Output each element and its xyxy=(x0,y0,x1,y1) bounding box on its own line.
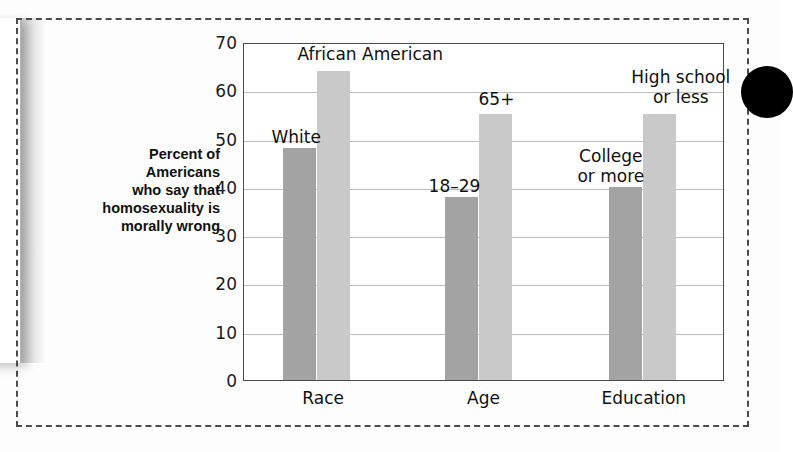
bar-race-1 xyxy=(317,71,350,380)
bar-annotation-age-0: 18–29 xyxy=(410,176,500,196)
y-tick-label-0: 0 xyxy=(197,371,237,391)
bar-annotation-education-1: High school or less xyxy=(611,67,751,107)
bar-annotation-age-1: 65+ xyxy=(462,89,532,109)
x-tick-label-age: Age xyxy=(404,388,564,408)
x-tick-label-education: Education xyxy=(564,388,724,408)
y-tick-label-60: 60 xyxy=(197,81,237,101)
bar-education-0 xyxy=(609,187,642,380)
bar-age-0 xyxy=(445,197,478,380)
bar-race-0 xyxy=(283,148,316,380)
bar-annotation-education-0: College or more xyxy=(556,146,666,186)
y-tick-label-40: 40 xyxy=(197,178,237,198)
y-axis-tick-labels: 010203040506070 xyxy=(193,43,237,381)
y-tick-label-10: 10 xyxy=(197,323,237,343)
y-tick-label-20: 20 xyxy=(197,274,237,294)
bar-annotation-race-0: White xyxy=(251,127,341,147)
y-tick-label-70: 70 xyxy=(197,33,237,53)
bar-annotation-race-1: African American xyxy=(270,44,470,64)
bar-age-1 xyxy=(479,114,512,380)
x-tick-label-race: Race xyxy=(243,388,403,408)
y-tick-label-50: 50 xyxy=(197,130,237,150)
y-tick-label-30: 30 xyxy=(197,226,237,246)
